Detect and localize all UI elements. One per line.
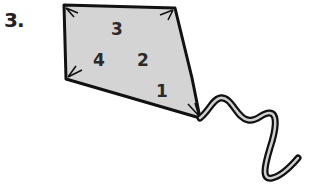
kite-tail-ribbon	[200, 98, 298, 178]
kite-number-1: 1	[156, 81, 168, 101]
kite-illustration: 3 4 2 1	[0, 0, 309, 187]
kite-body	[64, 5, 200, 118]
kite-number-4: 4	[93, 50, 105, 70]
kite-number-2: 2	[137, 50, 149, 70]
kite-number-3: 3	[111, 19, 123, 39]
